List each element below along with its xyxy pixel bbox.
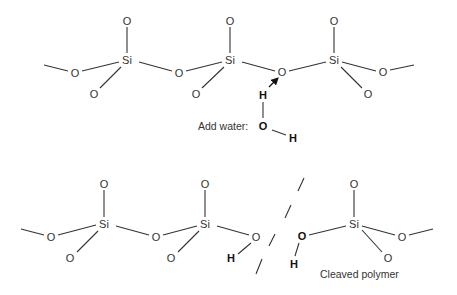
- cleavage-dash: [285, 205, 291, 218]
- cleavage-dash: [256, 259, 262, 274]
- atom-oxygen: O: [175, 67, 184, 79]
- cleaved-polymer-caption: Cleaved polymer: [320, 268, 399, 280]
- atom-silicon: Si: [349, 218, 359, 230]
- atom-silicon: Si: [200, 218, 210, 230]
- atom-silicon: Si: [329, 54, 339, 66]
- atom-silicon: Si: [99, 218, 109, 230]
- atom-oxygen: O: [379, 66, 388, 78]
- atom-hydrogen: H: [259, 89, 267, 101]
- atom-silicon: Si: [122, 54, 132, 66]
- atom-oxygen-water: O: [259, 120, 268, 132]
- atom-oxygen: O: [123, 15, 132, 27]
- atom-oxygen: O: [192, 88, 201, 100]
- atom-oxygen: O: [384, 252, 393, 264]
- atom-oxygen: O: [152, 231, 161, 243]
- atom-oxygen: O: [226, 15, 235, 27]
- hydrolysis-diagram: O Si O O O Si O O O Si O O O H O H Add w…: [0, 0, 457, 295]
- attack-arrow-icon: [269, 79, 277, 87]
- atom-hydrogen: H: [227, 252, 235, 264]
- atom-oxygen: O: [350, 178, 359, 190]
- atom-oxygen-hydroxyl: O: [298, 230, 307, 242]
- water-molecule: H O H Add water:: [198, 79, 297, 144]
- atom-hydrogen: H: [289, 132, 297, 144]
- atom-oxygen: O: [71, 67, 80, 79]
- atom-hydrogen: H: [290, 258, 298, 270]
- atom-oxygen: O: [47, 231, 56, 243]
- atom-oxygen: O: [90, 88, 99, 100]
- atom-oxygen-target: O: [278, 66, 287, 78]
- atom-oxygen: O: [201, 178, 210, 190]
- atom-oxygen: O: [252, 231, 261, 243]
- atom-oxygen: O: [330, 15, 339, 27]
- atom-oxygen: O: [364, 88, 373, 100]
- add-water-label: Add water:: [198, 120, 248, 132]
- top-molecule-atoms: O Si O O O Si O O O Si O O O: [71, 15, 388, 100]
- atom-oxygen: O: [100, 178, 109, 190]
- atom-oxygen: O: [167, 252, 176, 264]
- cleavage-dash: [269, 234, 275, 246]
- atom-oxygen: O: [66, 252, 75, 264]
- atom-silicon: Si: [225, 54, 235, 66]
- atom-oxygen: O: [398, 231, 407, 243]
- cleavage-dash: [298, 178, 304, 191]
